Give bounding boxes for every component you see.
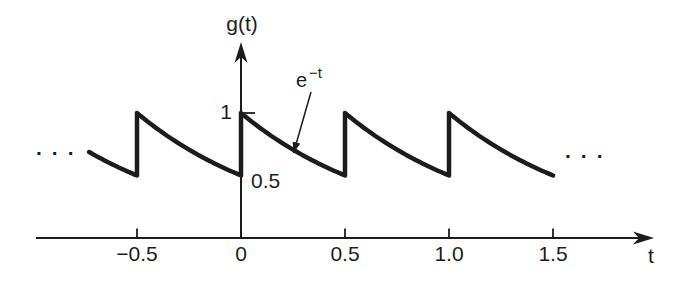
x-tick-label: 1.0 (434, 242, 463, 265)
x-ticks (137, 229, 553, 239)
ellipsis-left: ... (36, 136, 84, 159)
annotation-e-base: e (296, 69, 307, 91)
figure-canvas: −0.500.51.01.5 1 0.5 g(t) t e −t ... ... (0, 0, 687, 286)
x-tick-label: 0 (235, 242, 247, 265)
y-tick-label-1: 1 (220, 100, 232, 123)
y-axis-title: g(t) (226, 12, 258, 35)
curve-path (89, 113, 553, 176)
annotation-arrow (294, 92, 312, 153)
x-tick-label: −0.5 (116, 242, 157, 265)
function-plot: −0.500.51.01.5 1 0.5 g(t) t e −t ... ... (0, 0, 687, 286)
x-axis-title: t (648, 244, 654, 267)
x-tick-label: 1.5 (538, 242, 567, 265)
x-tick-label: 0.5 (330, 242, 359, 265)
annotation-exponent: −t (309, 64, 323, 81)
y-tick-label-0-5: 0.5 (251, 169, 280, 192)
ellipsis-right: ... (565, 139, 613, 162)
x-tick-labels: −0.500.51.01.5 (116, 242, 567, 265)
